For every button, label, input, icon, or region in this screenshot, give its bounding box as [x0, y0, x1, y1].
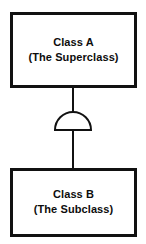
subclass-note: (The Subclass) [13, 203, 134, 217]
superclass-note: (The Superclass) [13, 51, 134, 65]
uml-inheritance-diagram: Class A (The Superclass) Class B (The Su… [0, 0, 146, 244]
subclass-box[interactable]: Class B (The Subclass) [10, 168, 137, 237]
generalization-semicircle-icon [55, 112, 91, 130]
superclass-box[interactable]: Class A (The Superclass) [10, 12, 137, 88]
superclass-name: Class A [13, 36, 134, 50]
subclass-name: Class B [13, 188, 134, 202]
